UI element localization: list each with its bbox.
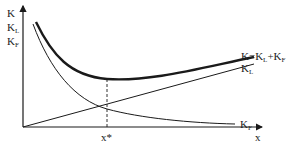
kl-line xyxy=(23,64,254,127)
y-label-kf: KF xyxy=(7,35,19,49)
kl-curve-label: KL xyxy=(241,62,253,76)
cost-diagram: K KL KF K=KL+KF KL KF x* x xyxy=(0,0,294,148)
optimum-x-label: x* xyxy=(101,131,112,143)
y-label-kl: KL xyxy=(7,21,19,35)
kf-curve xyxy=(33,24,235,124)
total-cost-curve xyxy=(36,22,254,79)
y-label-k: K xyxy=(7,7,15,19)
x-axis-label: x xyxy=(255,131,261,143)
kf-curve-label: KF xyxy=(240,118,252,132)
